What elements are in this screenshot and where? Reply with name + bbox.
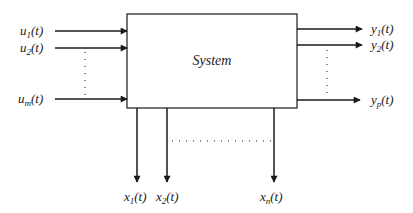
state-label-n: xn(t) (259, 189, 283, 206)
state-label-2: x2(t) (155, 189, 179, 206)
output-labels: y1(t) y2(t) yp(t) (369, 21, 394, 109)
input-label-2: u2(t) (20, 40, 43, 57)
input-label-m: um(t) (18, 91, 43, 108)
output-label-1: y1(t) (369, 21, 394, 38)
system-block-diagram: System u1(t) u2(t) um(t) y1(t) y2(t) yp(… (0, 0, 413, 213)
state-label-1: x1(t) (123, 189, 147, 206)
input-labels: u1(t) u2(t) um(t) (18, 23, 43, 108)
output-label-p: yp(t) (369, 92, 394, 109)
input-label-1: u1(t) (20, 23, 43, 40)
input-arrows (55, 31, 127, 99)
system-box: System (127, 14, 297, 108)
state-arrows (137, 108, 274, 182)
system-label: System (193, 53, 232, 68)
output-arrows (297, 29, 362, 100)
output-label-2: y2(t) (369, 37, 394, 54)
state-labels: x1(t) x2(t) xn(t) (123, 189, 283, 206)
